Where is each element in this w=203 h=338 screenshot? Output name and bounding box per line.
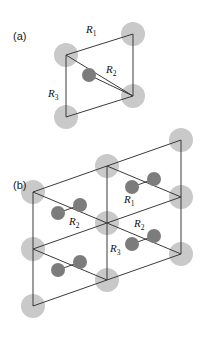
panel-tag-a: (a) — [13, 30, 26, 42]
figure-root: (a) R1 R2 R3 — [0, 0, 203, 338]
dark-atom — [125, 237, 139, 251]
dark-atom — [73, 198, 87, 212]
label-R1-sub: 1 — [93, 29, 97, 38]
panel-tag-b: (b) — [13, 179, 26, 191]
dark-atom — [51, 206, 65, 220]
label-R3-sub: 3 — [117, 248, 121, 257]
dark-atom — [147, 229, 161, 243]
dark-atom — [147, 172, 161, 186]
label-R1-sub: 1 — [131, 199, 135, 208]
dark-atom — [51, 263, 65, 277]
lattice-diagram: (a) R1 R2 R3 — [0, 0, 203, 338]
label-R2-right-sub: 2 — [141, 223, 145, 232]
dark-atom — [125, 180, 139, 194]
label-R3-sub: 3 — [55, 93, 59, 102]
dark-atom — [82, 68, 96, 82]
label-R2-left-sub: 2 — [76, 221, 80, 230]
dark-atom — [73, 255, 87, 269]
label-R2-sub: 2 — [113, 69, 117, 78]
